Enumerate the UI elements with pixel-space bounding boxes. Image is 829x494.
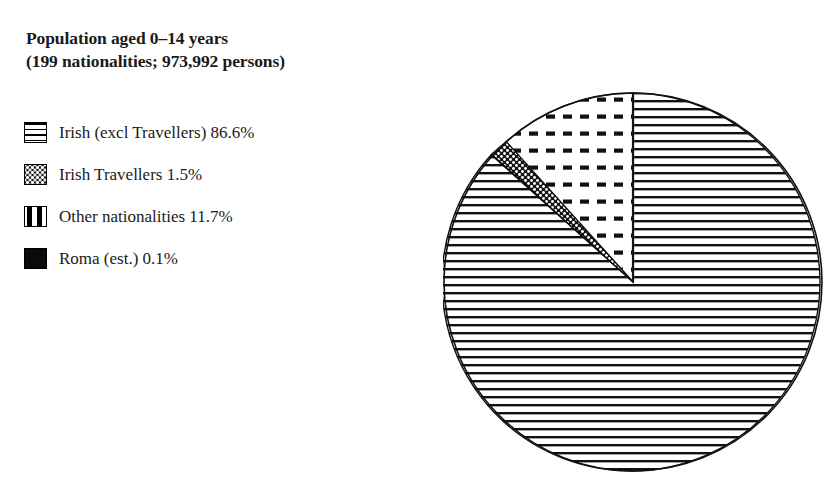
legend-swatch-travellers-icon	[24, 164, 47, 185]
figure-title: Population aged 0–14 years (199 national…	[26, 27, 406, 73]
legend-swatch-other-icon	[24, 206, 47, 227]
legend-item-roma: Roma (est.) 0.1%	[24, 237, 424, 279]
pie-chart-figure: Population aged 0–14 years (199 national…	[0, 0, 829, 494]
chart-legend: Irish (excl Travellers) 86.6% Irish Trav…	[24, 111, 424, 279]
legend-swatch-roma-icon	[24, 248, 47, 269]
legend-label-irish: Irish (excl Travellers) 86.6%	[59, 122, 254, 143]
figure-title-line-2: (199 nationalities; 973,992 persons)	[26, 50, 406, 73]
legend-label-roma: Roma (est.) 0.1%	[59, 248, 178, 269]
pie-chart	[443, 92, 823, 472]
legend-item-irish: Irish (excl Travellers) 86.6%	[24, 111, 424, 153]
legend-item-travellers: Irish Travellers 1.5%	[24, 153, 424, 195]
pie-chart-svg	[443, 92, 823, 472]
legend-item-other: Other nationalities 11.7%	[24, 195, 424, 237]
legend-label-travellers: Irish Travellers 1.5%	[59, 164, 202, 185]
legend-swatch-irish-icon	[24, 122, 47, 143]
legend-label-other: Other nationalities 11.7%	[59, 206, 233, 227]
figure-title-line-1: Population aged 0–14 years	[26, 27, 406, 50]
